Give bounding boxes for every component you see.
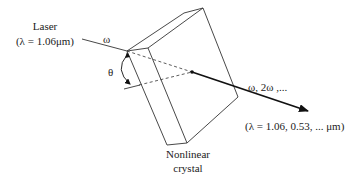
nonlinear-crystal [127,8,238,145]
angle-arc [121,55,130,84]
crystal-axis-line [124,85,140,89]
laser-wavelength-label: (λ = 1.06μm) [16,35,74,48]
angle-theta-label: θ [108,66,113,78]
output-frequencies-label: ω, 2ω ,... [248,81,287,93]
laser-label: Laser [33,20,58,32]
crystal-label-line1: Nonlinear [166,148,210,160]
input-frequency-label: ω [103,33,110,45]
crystal-top-face [127,8,203,51]
crystal-label-line2: crystal [173,162,202,174]
shg-diagram: Laser (λ = 1.06μm) ω θ ω, 2ω ,... (λ = 1… [0,0,355,179]
angle-arc-start-arrow [125,52,130,58]
crystal-front-face [127,48,187,145]
crystal-side-face [187,8,238,143]
internal-ray-upper [127,51,192,72]
diagram-canvas: Laser (λ = 1.06μm) ω θ ω, 2ω ,... (λ = 1… [0,0,355,179]
output-wavelengths-label: (λ = 1.06, 0.53, ... μm) [245,120,345,133]
internal-ray-lower [139,72,192,85]
